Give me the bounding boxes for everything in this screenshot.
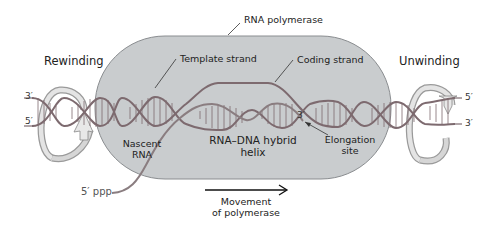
transcription-diagram: RNA polymerase Rewinding Unwinding Templ… (0, 0, 485, 227)
right-bottom-end-label: 3′ (465, 118, 473, 129)
movement-arrow-icon (205, 185, 287, 195)
left-bottom-end-label: 5′ (25, 116, 33, 127)
elongation-site-label: Elongation site (322, 134, 378, 156)
movement-of-polymerase-label: Movement of polymerase (205, 196, 287, 218)
rna-dna-hybrid-label: RNA–DNA hybrid helix (198, 134, 308, 158)
left-top-end-label: 3′ (25, 91, 33, 102)
unwinding-label: Unwinding (399, 56, 460, 67)
rewinding-arrow-icon (41, 90, 93, 159)
template-strand-label: Template strand (180, 53, 257, 64)
rna-polymerase-label: RNA polymerase (244, 14, 323, 25)
rewinding-label: Rewinding (44, 56, 104, 67)
rna-polymerase-leader (228, 23, 240, 35)
rna-3prime-label: 3′ (297, 110, 305, 121)
nascent-rna-label: Nascent RNA (122, 138, 162, 160)
five-prime-ppp-label: 5′ ppp (81, 186, 112, 197)
diagram-canvas (0, 0, 485, 227)
coding-strand-label: Coding strand (297, 54, 364, 65)
right-top-end-label: 5′ (465, 92, 473, 103)
